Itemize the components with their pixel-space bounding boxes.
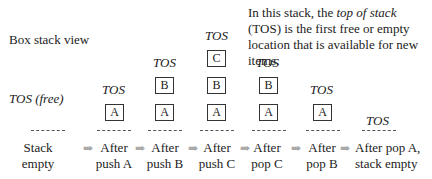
label-line2: stack empty — [355, 156, 431, 172]
column-label-pop-c: After pop C — [247, 140, 287, 172]
column-label-pop-a: After pop A, stack empty — [355, 140, 431, 172]
stack-base-push-a — [97, 130, 131, 131]
stack-item-b: B — [207, 77, 226, 94]
label-line1: After — [302, 140, 342, 156]
label-line2: pop B — [302, 156, 342, 172]
stack-item-a: A — [259, 104, 278, 121]
tos-marker-empty: TOS (free) — [9, 91, 64, 107]
stack-base-push-b — [148, 130, 182, 131]
stack-base-pop-c — [252, 130, 286, 131]
label-line2: empty — [18, 156, 58, 172]
stack-item-a: A — [207, 104, 226, 121]
column-label-push-a: After push A — [92, 140, 136, 172]
note-text-1: In this stack, the — [248, 5, 336, 20]
tos-marker-pop-c: TOS — [256, 55, 279, 71]
stack-base-pop-a — [362, 130, 396, 131]
stack-item-a: A — [105, 104, 124, 121]
column-label-empty: Stack empty — [18, 140, 58, 172]
stack-base-pop-b — [306, 130, 340, 131]
label-line1: After pop A, — [355, 140, 431, 156]
label-line1: After — [247, 140, 287, 156]
label-line2: pop C — [247, 156, 287, 172]
label-line2: push B — [143, 156, 187, 172]
stack-item-a: A — [313, 104, 332, 121]
stack-item-b: B — [155, 77, 174, 94]
column-label-push-c: After push C — [195, 140, 239, 172]
column-label-pop-b: After pop B — [302, 140, 342, 172]
label-line2: push A — [92, 156, 136, 172]
stack-item-a: A — [155, 104, 174, 121]
label-line1: After — [92, 140, 136, 156]
stack-item-b: B — [259, 77, 278, 94]
arrow-icon: ➡ — [340, 141, 350, 156]
tos-marker-push-a: TOS — [102, 82, 125, 98]
tos-marker-pop-b: TOS — [310, 82, 333, 98]
arrow-icon: ➡ — [291, 141, 301, 156]
stack-item-c: C — [207, 50, 226, 67]
label-line1: After — [143, 140, 187, 156]
tos-marker-pop-a: TOS — [366, 113, 389, 129]
label-line2: push C — [195, 156, 239, 172]
diagram-title: Box stack view — [9, 32, 89, 48]
label-line1: Stack — [18, 140, 58, 156]
stack-base-push-c — [200, 130, 234, 131]
note-emphasis: top of stack — [336, 5, 396, 20]
stack-base-empty — [31, 130, 65, 131]
tos-marker-push-c: TOS — [205, 28, 228, 44]
column-label-push-b: After push B — [143, 140, 187, 172]
label-line1: After — [195, 140, 239, 156]
tos-marker-push-b: TOS — [153, 55, 176, 71]
